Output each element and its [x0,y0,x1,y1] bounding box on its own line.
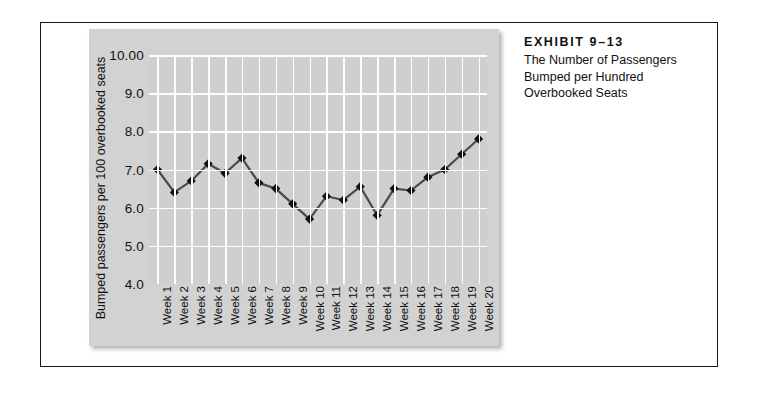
vertical-gridline [225,55,227,284]
caption-line-3: Overbooked Seats [524,85,704,102]
vertical-gridline [208,55,210,284]
x-axis-tick-label: Week 14 [381,286,393,331]
x-axis-tick-label: Week 4 [212,286,224,325]
y-axis-tick-label: 7.0 [125,162,144,177]
x-axis-tick-label: Week 18 [449,286,461,331]
vertical-gridline [462,55,464,284]
vertical-gridline [377,55,379,284]
x-axis-tick-labels: Week 1Week 2Week 3Week 4Week 5Week 6Week… [149,284,487,346]
vertical-gridline [259,55,261,284]
vertical-gridline [310,55,312,284]
horizontal-gridline [149,208,487,210]
x-axis-tick-label: Week 11 [330,286,342,330]
x-axis-tick-label: Week 10 [314,286,326,331]
x-axis-tick-label: Week 1 [161,286,173,325]
caption-line-2: Bumped per Hundred [524,69,704,86]
horizontal-gridline [149,55,487,57]
vertical-gridline [293,55,295,284]
x-axis-tick-label: Week 9 [297,286,309,325]
y-axis-tick-label: 5.0 [125,238,144,253]
vertical-gridline [445,55,447,284]
chart-panel: Bumped passengers per 100 overbooked sea… [89,29,499,346]
x-axis-tick-label: Week 8 [280,286,292,325]
horizontal-gridline [149,93,487,95]
y-axis-tick-label: 8.0 [125,124,144,139]
x-axis-tick-label: Week 13 [364,286,376,331]
x-axis-tick-label: Week 20 [483,286,495,331]
vertical-gridline [428,55,430,284]
x-axis-tick-label: Week 6 [246,286,258,325]
x-axis-tick-label: Week 19 [466,286,478,331]
exhibit-caption: EXHIBIT 9–13 The Number of Passengers Bu… [524,35,704,102]
horizontal-gridline [149,131,487,133]
vertical-gridline [276,55,278,284]
vertical-gridline [343,55,345,284]
vertical-gridline [479,55,481,284]
x-axis-tick-label: Week 16 [415,286,427,331]
vertical-gridline [191,55,193,284]
x-axis-tick-label: Week 2 [178,286,190,325]
exhibit-figure-frame: Bumped passengers per 100 overbooked sea… [40,22,718,367]
plot-area [149,55,487,284]
vertical-gridline [360,55,362,284]
horizontal-gridline [149,170,487,172]
vertical-gridline [326,55,328,284]
vertical-gridline [394,55,396,284]
x-axis-tick-label: Week 12 [347,286,359,331]
exhibit-label: EXHIBIT 9–13 [524,35,704,49]
vertical-gridline [174,55,176,284]
y-axis-tick-label: 9.0 [125,86,144,101]
x-axis-tick-label: Week 5 [229,286,241,325]
y-axis-tick-labels: 10.009.08.07.06.05.04.0 [89,29,147,346]
vertical-gridline [242,55,244,284]
x-axis-tick-label: Week 15 [398,286,410,331]
vertical-gridline [411,55,413,284]
caption-line-1: The Number of Passengers [524,52,704,69]
x-axis-tick-label: Week 17 [432,286,444,331]
y-axis-tick-label: 10.00 [109,48,144,63]
y-axis-tick-label: 6.0 [125,200,144,215]
x-axis-tick-label: Week 7 [263,286,275,325]
y-axis-tick-label: 4.0 [125,277,144,292]
vertical-gridline [157,55,159,284]
horizontal-gridline [149,246,487,248]
x-axis-tick-label: Week 3 [195,286,207,325]
